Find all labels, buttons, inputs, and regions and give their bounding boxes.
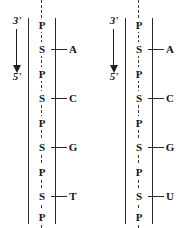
rna-residue-p-5: P	[130, 210, 148, 224]
rna-base-4: U	[163, 189, 177, 203]
rna-base-3: G	[163, 140, 177, 154]
rna-base-link-4	[148, 196, 164, 197]
dna-residue-s-2: S	[33, 91, 51, 105]
rna-residue-p-1: P	[130, 18, 148, 32]
rna-residue-s-1: S	[130, 42, 148, 56]
rna-base-link-3	[148, 147, 164, 148]
rna-base-2: C	[163, 91, 177, 105]
dna-residue-p-1: P	[33, 18, 51, 32]
rna-strand: P S A P S C P S G P S U P	[97, 0, 194, 228]
dna-base-4: T	[66, 189, 80, 203]
dna-residue-p-2: P	[33, 67, 51, 81]
rna-residue-p-2: P	[130, 67, 148, 81]
dna-residue-p-3: P	[33, 116, 51, 130]
dna-base-link-1	[51, 49, 67, 50]
rna-residue-p-3: P	[130, 116, 148, 130]
rna-residue-s-3: S	[130, 140, 148, 154]
nucleic-acid-diagram: 3' 5' P S A P S C P S G P S T P	[0, 0, 194, 228]
dna-base-link-4	[51, 196, 67, 197]
rna-residue-p-4: P	[130, 165, 148, 179]
rna-base-1: A	[163, 42, 177, 56]
dna-residue-s-3: S	[33, 140, 51, 154]
rna-base-link-2	[148, 98, 164, 99]
rna-panel: 3' 5' P S A P S C P S G P S U P	[97, 0, 194, 228]
rna-rail-left	[125, 18, 126, 224]
dna-residue-p-5: P	[33, 210, 51, 224]
dna-base-link-2	[51, 98, 67, 99]
dna-base-1: A	[66, 42, 80, 56]
dna-base-link-3	[51, 147, 67, 148]
dna-rail-left	[28, 18, 29, 224]
rna-base-link-1	[148, 49, 164, 50]
dna-residue-p-4: P	[33, 165, 51, 179]
dna-strand: P S A P S C P S G P S T P	[0, 0, 97, 228]
dna-residue-s-1: S	[33, 42, 51, 56]
rna-residue-s-2: S	[130, 91, 148, 105]
dna-base-3: G	[66, 140, 80, 154]
dna-base-2: C	[66, 91, 80, 105]
rna-residue-s-4: S	[130, 189, 148, 203]
dna-residue-s-4: S	[33, 189, 51, 203]
dna-panel: 3' 5' P S A P S C P S G P S T P	[0, 0, 97, 228]
